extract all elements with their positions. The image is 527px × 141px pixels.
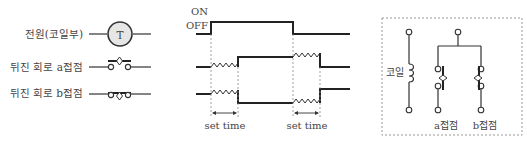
common-terminal <box>455 29 461 35</box>
off-label: OFF <box>186 20 208 31</box>
legend: 전원(코일부) T 뒤진 회로 a접점 뒤진 회로 b접점 <box>10 22 151 100</box>
a-contact-release-zigzag <box>293 53 320 57</box>
b-contact-label: b접점 <box>473 120 497 131</box>
a-contact-delay-zigzag <box>211 63 238 67</box>
timing-chart: ON OFF set time set t <box>186 6 350 131</box>
coil-symbol-icon: T <box>89 22 151 46</box>
legend-label-b-contact: 뒤진 회로 b접점 <box>10 87 83 99</box>
on-label: ON <box>191 6 208 17</box>
set-time-label-right: set time <box>287 120 328 131</box>
a-contact-label: a접점 <box>434 120 458 131</box>
legend-label-a-contact: 뒤진 회로 a접점 <box>10 61 83 73</box>
relay-circuit: 코일 a접점 b접점 <box>382 18 522 135</box>
b-contact-release-zigzag <box>293 99 320 103</box>
timer-relay-diagram: 전원(코일부) T 뒤진 회로 a접점 뒤진 회로 b접점 <box>0 0 527 141</box>
b-contact-icon <box>474 66 484 113</box>
a-contact-symbol-icon <box>89 57 151 70</box>
set-time-label-left: set time <box>205 120 246 131</box>
coil-label: 코일 <box>386 67 404 78</box>
coil-icon <box>406 29 413 113</box>
coil-symbol-letter: T <box>116 29 123 41</box>
set-time-arrow-right <box>294 111 319 115</box>
set-time-arrow-left <box>212 111 237 115</box>
a-contact-icon <box>435 66 447 113</box>
input-signal-waveform <box>196 22 350 34</box>
b-contact-delay-zigzag <box>211 90 238 94</box>
legend-label-coil: 전원(코일부) <box>25 28 83 40</box>
b-contact-symbol-icon <box>89 92 151 100</box>
